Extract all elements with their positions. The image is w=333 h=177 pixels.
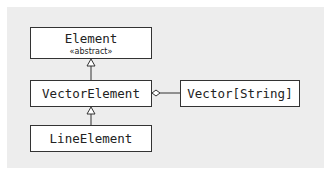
class-name: LineElement (50, 131, 133, 146)
class-element: Element «abstract» (30, 27, 152, 59)
class-vector-element: VectorElement (30, 80, 152, 107)
class-name: Vector[String] (187, 86, 292, 101)
class-line-element: LineElement (30, 125, 152, 152)
class-name: Element (65, 31, 118, 46)
aggregation-diamond-icon (152, 90, 160, 96)
class-name: VectorElement (42, 86, 140, 101)
class-stereotype: «abstract» (70, 47, 113, 56)
generalization-arrow-icon (87, 107, 95, 114)
class-vector-string: Vector[String] (180, 80, 300, 107)
generalization-arrow-icon (87, 59, 95, 66)
